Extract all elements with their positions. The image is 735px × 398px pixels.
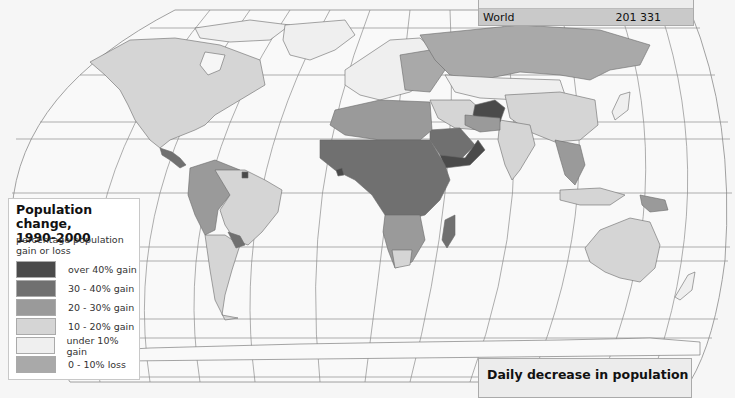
legend-subtitle-line2: gain or loss	[16, 245, 136, 256]
legend-label: 30 - 40% gain	[68, 283, 134, 294]
legend-label: over 40% gain	[68, 264, 137, 275]
legend-swatch-loss	[16, 356, 56, 373]
legend-item: under 10% gain	[16, 336, 139, 355]
guiana-dark	[242, 172, 248, 178]
legend-label: 0 - 10% loss	[68, 359, 126, 370]
legend-label: 10 - 20% gain	[68, 321, 134, 332]
legend-item: 10 - 20% gain	[16, 317, 139, 336]
legend-subtitle: percentage population gain or loss	[16, 234, 136, 256]
legend-swatch-under-10	[16, 337, 55, 354]
legend-subtitle-line1: percentage population	[16, 234, 136, 245]
legend-item: over 40% gain	[16, 260, 139, 279]
legend-item: 20 - 30% gain	[16, 298, 139, 317]
legend-swatch-over-40	[16, 261, 56, 278]
legend-label: 20 - 30% gain	[68, 302, 134, 313]
legend-swatch-10-20	[16, 318, 56, 335]
legend-label: under 10% gain	[67, 335, 140, 357]
legend-title-line1: Population change,	[16, 203, 141, 231]
world-label: World	[483, 11, 515, 24]
world-daily-increase-panel: World 201 331	[478, 0, 694, 26]
world-total-row: World 201 331	[479, 8, 693, 25]
legend-swatch-30-40	[16, 280, 56, 297]
daily-decrease-title: Daily decrease in population	[487, 367, 688, 382]
world-value: 201 331	[616, 11, 662, 24]
legend: Population change, 1990-2000 percentage …	[8, 198, 140, 380]
south-africa	[392, 250, 412, 268]
legend-item: 30 - 40% gain	[16, 279, 139, 298]
legend-swatch-20-30	[16, 299, 56, 316]
legend-item: 0 - 10% loss	[16, 355, 139, 374]
legend-items: over 40% gain 30 - 40% gain 20 - 30% gai…	[16, 260, 139, 374]
daily-decrease-panel: Daily decrease in population	[478, 358, 692, 398]
